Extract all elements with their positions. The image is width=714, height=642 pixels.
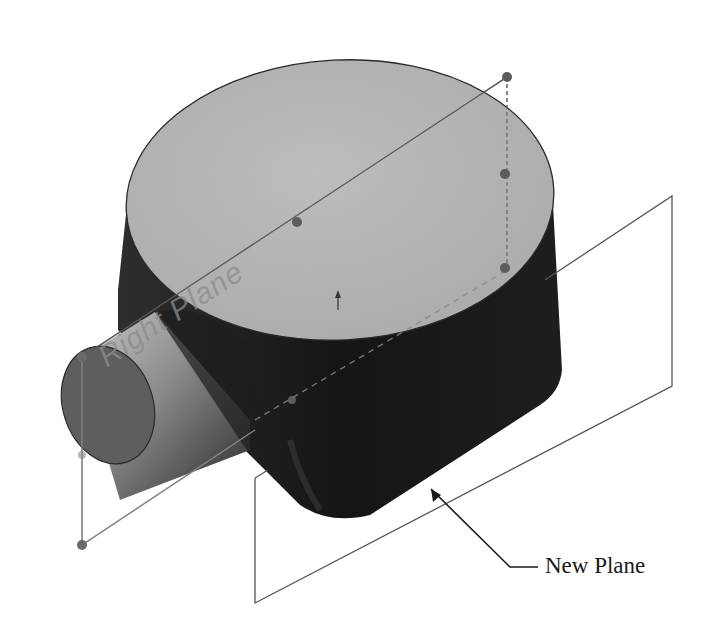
cad-figure: Right Plane New Plane [0,0,714,642]
handle-dot [500,263,510,273]
model-canvas [0,0,714,642]
handle-dot [502,72,512,82]
new-plane-callout-label: New Plane [545,553,645,579]
handle-dot [500,169,510,179]
new-plane-leader [431,489,538,567]
handle-dot [78,451,86,459]
handle-dot [77,540,87,550]
handle-dot [288,396,296,404]
handle-dot [77,352,87,362]
handle-dot [292,217,302,227]
